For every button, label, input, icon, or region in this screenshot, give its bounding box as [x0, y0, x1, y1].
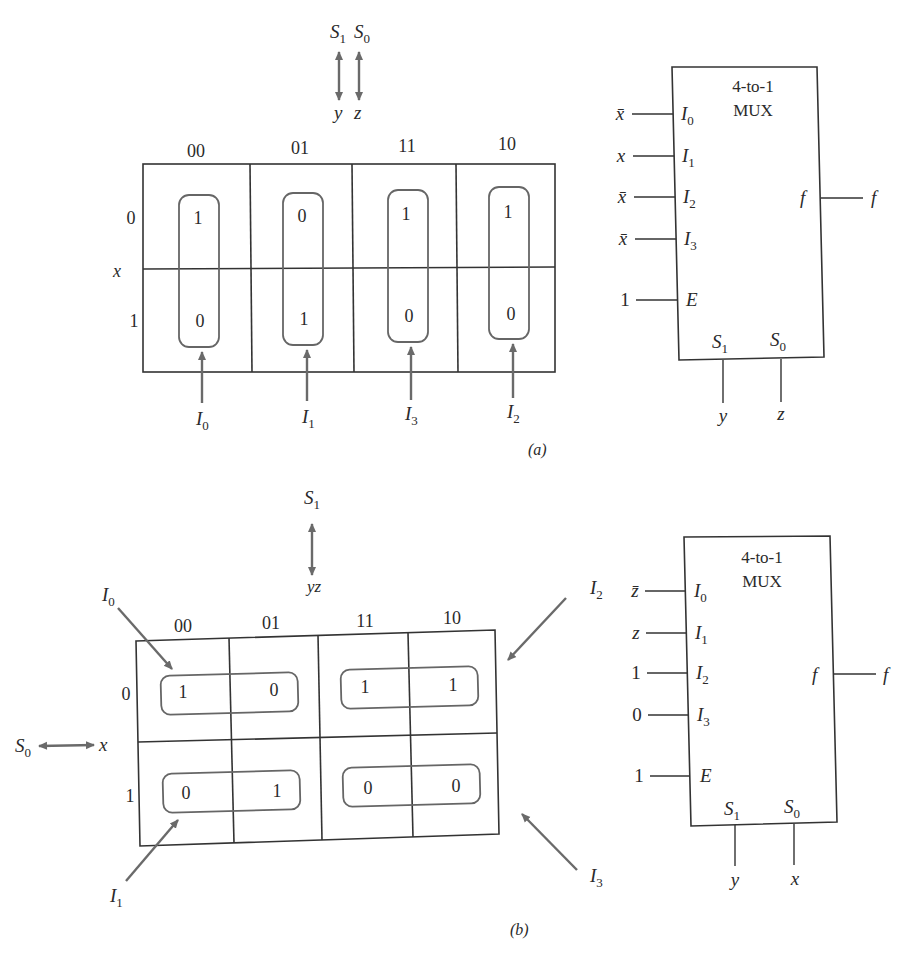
mux-a-s0-signal: z [776, 403, 785, 424]
kmap-a-col-header: 10 [498, 134, 516, 154]
kmap-a-cell: 1 [402, 204, 411, 224]
kmap-b-col-header: 11 [356, 611, 373, 631]
kmap-b-var-yz: yz [305, 577, 322, 596]
mux-a-input-signal: x̄ [615, 103, 625, 124]
kmap-b-cell: 1 [361, 677, 370, 697]
kmap-b-s1-label: S1 [304, 487, 320, 512]
mux-b-s0-signal: x [790, 868, 800, 889]
mux-a-title-line1: 4-to-1 [732, 77, 774, 96]
kmap-b-arrow-i0 [118, 608, 172, 669]
mux-a-input-signal: x̄ [618, 228, 628, 249]
mux-b-pin-s1: S1 [724, 798, 740, 823]
kmap-b-arrow-i1 [126, 820, 178, 881]
kmap-a-cell: 1 [504, 202, 513, 222]
kmap-b-cell: 0 [270, 680, 279, 700]
mux-a-s1-signal: y [717, 405, 728, 426]
mux-a-pin-s0: S0 [770, 329, 786, 354]
mux-a-pin-i1: I1 [681, 145, 695, 170]
mux-b-title-line1: 4-to-1 [741, 548, 783, 567]
kmap-b-select-header: S1 yz [304, 487, 321, 596]
kmap-b-label-i0: I0 [101, 584, 115, 609]
kmap-b-row-divider [138, 733, 497, 742]
mux-a-pin-i2: I2 [682, 186, 696, 211]
kmap-a-var-z: z [353, 102, 362, 123]
mux-b-pin-i0: I0 [693, 580, 707, 605]
kmap-a-col-divider-3 [456, 164, 458, 372]
kmap-b-row-header: 1 [126, 786, 135, 806]
kmap-b-arrow-i3 [522, 814, 577, 870]
caption-b: (b) [510, 921, 529, 939]
kmap-b-col-header: 01 [262, 613, 280, 633]
kmap-a-col-header: 00 [187, 141, 205, 161]
mux-b-pin-i3: I3 [696, 704, 710, 729]
mux-b-pin-f: f [812, 664, 820, 685]
kmap-a-col-header: 11 [398, 136, 415, 156]
kmap-b-col-header: 00 [174, 616, 192, 636]
kmap-a-col-divider-1 [250, 164, 252, 372]
kmap-a-label-i2: I2 [506, 401, 520, 426]
kmap-a-var-y: y [332, 102, 343, 123]
kmap-b-label-i1: I1 [109, 885, 123, 910]
kmap-b-cell: 1 [179, 682, 188, 702]
mux-b-input-signal: 1 [631, 662, 641, 683]
mux-a-input-signal: x [616, 145, 626, 166]
kmap-a: 00 01 11 10 0 x 1 1 0 1 1 0 1 0 0 [112, 134, 555, 433]
mux-a-pin-i3: I3 [683, 228, 697, 253]
mux-a-pin-s1: S1 [712, 331, 728, 356]
kmap-a-s0-label: S0 [354, 21, 370, 46]
kmap-b-cell: 1 [449, 675, 458, 695]
kmap-a-label-i1: I1 [301, 406, 315, 431]
kmap-b-var-x: x [98, 734, 108, 755]
mux-b-input-signal: z [631, 622, 640, 643]
mux-b-output-signal: f [883, 664, 891, 685]
mux-b-input-signal: 0 [632, 704, 642, 725]
kmap-a-label-i3: I3 [404, 403, 418, 428]
mux-a-input-signal: x̄ [617, 186, 627, 207]
kmap-a-s1-label: S1 [330, 21, 346, 46]
kmap-a-row-variable: x [112, 261, 121, 281]
mux-b-title-line2: MUX [742, 572, 782, 591]
kmap-a-cell: 0 [507, 304, 516, 324]
kmap-b-cell: 0 [452, 776, 461, 796]
kmap-b-cell: 1 [273, 781, 282, 801]
kmap-b-col-header: 10 [443, 608, 461, 628]
kmap-a-cell: 0 [405, 306, 414, 326]
kmap-b-row-header: 0 [122, 684, 131, 704]
kmap-a-row-divider [143, 267, 555, 269]
kmap-a-col-header: 01 [291, 138, 309, 158]
kmap-b-s0-label: S0 [15, 735, 31, 760]
kmap-b-arrow-i2 [508, 598, 566, 660]
mux-a-pin-i0: I0 [680, 103, 694, 128]
mux-a: 4-to-1 MUX x̄ x x̄ x̄ 1 I0 I1 I2 I3 E f … [615, 67, 879, 426]
kmap-a-cell: 0 [196, 311, 205, 331]
mux-a-pin-enable: E [685, 289, 698, 310]
kmap-a-cell: 1 [194, 208, 203, 228]
mux-b-s1-signal: y [729, 869, 740, 890]
mux-a-output-signal: f [871, 187, 879, 208]
mux-a-title-line2: MUX [733, 101, 773, 120]
mux-b-enable-signal: 1 [634, 765, 644, 786]
kmap-a-cell: 0 [298, 206, 307, 226]
kmap-a-row-header: 0 [127, 208, 136, 228]
kmap-b-label-i2: I2 [589, 577, 603, 602]
mux-b-pin-i1: I1 [694, 622, 708, 647]
kmap-a-label-i0: I0 [195, 408, 209, 433]
kmap-b-cell: 0 [364, 778, 373, 798]
figure-canvas: S1 S0 y z 00 01 11 10 0 x 1 [0, 0, 912, 969]
kmap-a-col-divider-2 [352, 164, 354, 372]
kmap-b-s0-x-arrow [39, 745, 94, 746]
kmap-a-select-header: S1 S0 y z [330, 21, 370, 123]
mux-a-pin-f: f [800, 187, 808, 208]
kmap-a-row-header: 1 [130, 311, 139, 331]
part-b: S1 yz 00 01 11 10 0 1 S0 x [15, 487, 891, 939]
caption-a: (a) [528, 441, 547, 459]
mux-b-pin-enable: E [699, 765, 712, 786]
kmap-b-cell: 0 [182, 783, 191, 803]
mux-b-pin-i2: I2 [695, 662, 709, 687]
kmap-b-label-i3: I3 [589, 865, 603, 890]
kmap-b: 00 01 11 10 0 1 S0 x 1 0 1 1 0 1 0 [15, 577, 603, 910]
mux-b: 4-to-1 MUX z̄ z 1 0 1 I0 I1 I2 I3 E f f … [630, 536, 891, 890]
mux-a-enable-signal: 1 [620, 289, 630, 310]
mux-b-input-signal: z̄ [630, 580, 639, 601]
mux-b-pin-s0: S0 [784, 796, 800, 821]
